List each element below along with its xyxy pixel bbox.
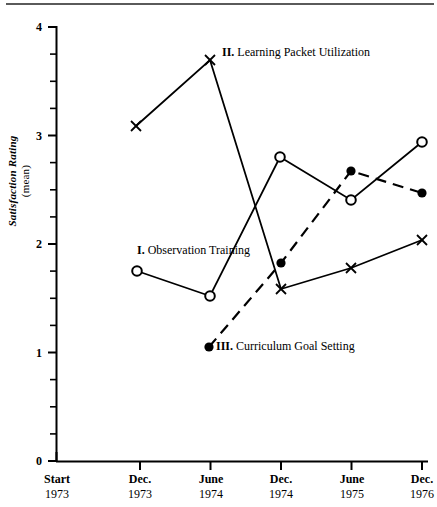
x-tick-month: Dec.	[129, 472, 151, 486]
x-tick-month: June	[199, 472, 224, 486]
x-tick-year: 1976	[387, 487, 437, 502]
marker-open-circle	[205, 291, 215, 301]
series-roman-numeral: II.	[222, 45, 234, 59]
x-tick-month: Start	[44, 472, 70, 486]
marker-open-circle	[346, 195, 356, 205]
x-tick-year: 1973	[105, 487, 175, 502]
x-tick-label-june-1975: June 1975	[317, 472, 387, 502]
series-roman-numeral: III.	[216, 339, 233, 353]
series-annotation-text: Learning Packet Utilization	[237, 45, 370, 59]
series-roman-numeral: I.	[137, 243, 145, 257]
marker-filled-circle	[204, 342, 213, 351]
series-annotation-text: Curriculum Goal Setting	[236, 339, 355, 353]
y-axis-title-main: Satisfaction Rating	[6, 136, 18, 227]
y-tick-label-2: 2	[20, 238, 42, 250]
series-observation-training	[132, 137, 427, 301]
x-tick-month: Dec.	[270, 472, 292, 486]
marker-open-circle	[132, 266, 142, 276]
y-tick-label-4: 4	[20, 21, 42, 33]
y-tick-label-1: 1	[20, 347, 42, 359]
x-tick-year: 1973	[22, 487, 92, 502]
x-tick-month: Dec.	[411, 472, 433, 486]
series-curriculum-goal-setting	[204, 166, 426, 351]
marker-filled-circle	[346, 166, 355, 175]
x-tick-label-june-1974: June 1974	[176, 472, 246, 502]
marker-filled-circle	[276, 258, 285, 267]
x-tick-label-dec-1976: Dec. 1976	[387, 472, 437, 502]
x-tick-label-dec-1974: Dec. 1974	[246, 472, 316, 502]
marker-open-circle	[275, 152, 285, 162]
marker-open-circle	[417, 137, 427, 147]
x-tick-label-dec-1973: Dec. 1973	[105, 472, 175, 502]
series-annotation-curriculum-goal-setting: III. Curriculum Goal Setting	[216, 339, 355, 354]
y-tick-label-3: 3	[20, 130, 42, 142]
y-tick-label-0: 0	[20, 455, 42, 467]
series-annotation-learning-packet-utilization: II. Learning Packet Utilization	[222, 45, 370, 60]
x-tick-month: June	[340, 472, 365, 486]
figure-container: Satisfaction Rating (mean) 4 3 2 1 0 Sta…	[0, 0, 437, 507]
series-annotation-text: Observation Training	[148, 243, 250, 257]
series-annotation-observation-training: I. Observation Training	[137, 243, 233, 258]
x-tick-label-start-1973: Start 1973	[22, 472, 92, 502]
x-tick-year: 1975	[317, 487, 387, 502]
x-tick-year: 1974	[176, 487, 246, 502]
x-tick-year: 1974	[246, 487, 316, 502]
marker-filled-circle	[417, 188, 426, 197]
